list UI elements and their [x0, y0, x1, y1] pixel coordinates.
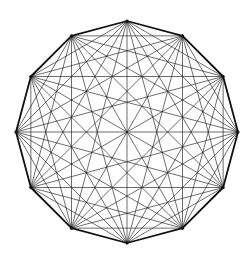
- diagonal-line: [16, 132, 72, 228]
- diagonal-line: [31, 77, 127, 244]
- vertex-dot: [236, 130, 239, 133]
- diagonal-line: [16, 132, 183, 228]
- diagonal-line: [31, 36, 72, 188]
- diagonal-line: [31, 188, 127, 244]
- diagonal-line: [72, 36, 239, 132]
- vertex-dot: [29, 75, 32, 78]
- vertex-dot: [70, 227, 73, 230]
- vertex-dot: [29, 186, 32, 189]
- diagonal-line: [31, 77, 183, 229]
- diagonal-lines: [16, 21, 238, 243]
- diagonal-line: [31, 36, 183, 188]
- vertex-dot: [222, 186, 225, 189]
- diagonal-line: [16, 36, 72, 132]
- vertex-dot: [181, 34, 184, 37]
- vertex-dot: [222, 75, 225, 78]
- vertex-dot: [181, 227, 184, 230]
- vertex-dot: [70, 34, 73, 37]
- vertex-dot: [14, 130, 17, 133]
- diagonal-line: [72, 36, 224, 77]
- vertex-dot: [125, 241, 128, 244]
- diagonal-line: [72, 77, 224, 229]
- vertex-dot: [125, 19, 128, 22]
- diagonal-line: [31, 77, 72, 229]
- diagonal-line: [72, 36, 224, 188]
- dodecagon-diagram: [0, 0, 250, 255]
